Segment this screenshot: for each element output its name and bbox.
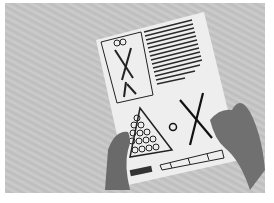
photo-scene (5, 3, 265, 193)
left-hand (105, 132, 130, 190)
photo (5, 3, 265, 193)
